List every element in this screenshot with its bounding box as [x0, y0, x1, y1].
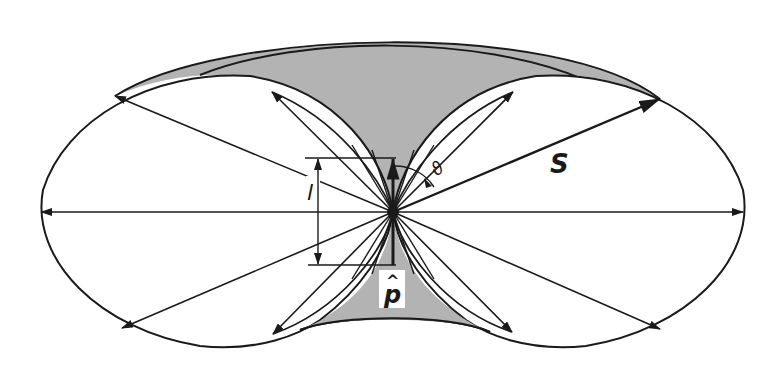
dipole-center-dot	[387, 206, 399, 218]
length-label: l	[307, 180, 313, 205]
dipole-radiation-diagram: l ϑ S ^ p	[0, 0, 769, 367]
dipole-label: p	[383, 281, 401, 309]
poynting-label: S	[550, 149, 569, 179]
